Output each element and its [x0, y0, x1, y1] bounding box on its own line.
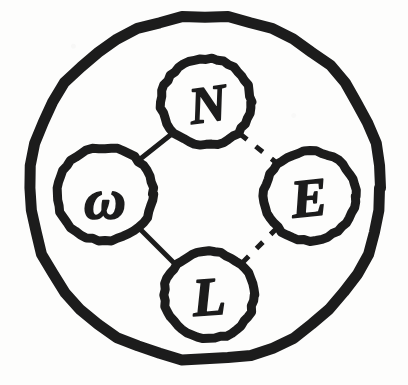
diagram-canvas: NωEL — [0, 0, 408, 385]
nodes-group: NωEL — [57, 58, 356, 338]
hand-drawn-diagram: NωEL — [0, 0, 408, 385]
node-west-label: ω — [84, 166, 126, 231]
edge-west-north — [139, 133, 173, 160]
edges-group — [139, 133, 278, 265]
node-south[interactable]: L — [164, 251, 255, 339]
node-east[interactable]: E — [263, 150, 356, 241]
node-east-label: E — [287, 166, 330, 230]
node-west[interactable]: ω — [57, 148, 154, 241]
edge-east-south — [242, 228, 277, 263]
node-north[interactable]: N — [160, 58, 252, 145]
edge-west-south — [139, 228, 176, 265]
node-south-label: L — [189, 266, 227, 328]
edge-north-east — [240, 134, 278, 164]
